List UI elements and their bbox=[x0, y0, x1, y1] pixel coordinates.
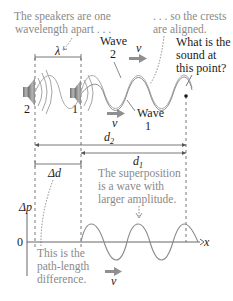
velocity-arrow-wave2: v bbox=[129, 41, 147, 63]
wavelength-label: λ bbox=[54, 44, 60, 58]
velocity-label: v bbox=[111, 274, 117, 288]
velocity-arrow-wave1: v bbox=[107, 109, 125, 130]
caption-line: What is the bbox=[176, 35, 231, 49]
speaker-body bbox=[70, 88, 75, 98]
observation-point bbox=[184, 94, 188, 98]
caption-line: path-length bbox=[37, 260, 90, 273]
caption-line: The speakers are one bbox=[14, 10, 111, 23]
speaker-label: 2 bbox=[24, 102, 30, 116]
wave-word: Wave bbox=[100, 34, 127, 48]
caption-line: difference. bbox=[37, 273, 86, 285]
caption-line: . . . so the crests bbox=[153, 10, 227, 22]
arrow-icon bbox=[139, 54, 147, 63]
pointer-line bbox=[114, 62, 121, 78]
caption-line: This is the bbox=[37, 247, 85, 259]
caption-line: sound at bbox=[176, 48, 217, 62]
velocity-arrow-superposition: v bbox=[105, 267, 122, 288]
wave-2 bbox=[35, 75, 192, 109]
path-difference-caption: This is the path-length difference. bbox=[37, 247, 90, 285]
d2-dimension: d2 bbox=[35, 130, 186, 147]
wave-number: 1 bbox=[145, 119, 151, 133]
velocity-label: v bbox=[136, 41, 142, 55]
d2-label: d2 bbox=[104, 130, 114, 146]
delta-p-axis-label: Δp bbox=[18, 200, 32, 214]
caption-line: this point? bbox=[176, 61, 226, 75]
pointer-line bbox=[127, 100, 135, 111]
pointer-dotted bbox=[63, 38, 72, 50]
caption-line: The superposition bbox=[98, 167, 181, 180]
wave-word: Wave bbox=[137, 106, 164, 120]
pointer-dotted bbox=[150, 36, 164, 84]
speakers-apart-caption: The speakers are one wavelength apart . … bbox=[14, 10, 111, 36]
delta-d-label: Δd bbox=[47, 166, 62, 180]
superposition-caption: The superposition is a wave with larger … bbox=[98, 167, 181, 206]
speaker-body bbox=[23, 87, 28, 97]
pointer-dotted bbox=[41, 180, 53, 247]
question-caption: What is the sound at this point? bbox=[176, 35, 231, 75]
speaker-2: 2 bbox=[23, 78, 35, 116]
velocity-label: v bbox=[112, 116, 118, 130]
delta-d-dimension: Δd bbox=[35, 161, 81, 180]
wave1-label: Wave 1 bbox=[127, 100, 164, 133]
wave2-label: Wave 2 bbox=[100, 34, 127, 78]
wave-number: 2 bbox=[110, 47, 116, 61]
x-axis-label: x bbox=[203, 235, 210, 249]
caption-line: wavelength apart . . . bbox=[15, 23, 111, 36]
arrow-icon bbox=[117, 109, 125, 118]
caption-line: larger amplitude. bbox=[98, 193, 176, 206]
zero-label: 0 bbox=[17, 235, 23, 249]
guide-lines bbox=[35, 58, 186, 247]
crests-aligned-caption: . . . so the crests are aligned. bbox=[153, 10, 227, 36]
speaker-label: 1 bbox=[72, 102, 78, 116]
interference-diagram: The speakers are one wavelength apart . … bbox=[0, 0, 233, 301]
caption-line: is a wave with bbox=[98, 180, 164, 192]
